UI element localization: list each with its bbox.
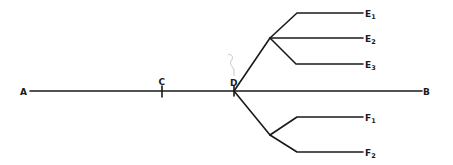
label-b: B: [423, 87, 430, 97]
lower-trunk: [234, 91, 270, 135]
label-c: C: [159, 77, 166, 87]
label-d: D: [230, 78, 237, 88]
branch-f1: [270, 117, 363, 135]
pencil-mark: [228, 55, 234, 76]
label-e1: E1: [365, 9, 376, 21]
label-f2: F2: [365, 148, 376, 160]
upper-trunk: [234, 38, 270, 91]
label-f1: F1: [365, 113, 376, 125]
branching-diagram: A B C D E1 E2 E3 F1 F2: [0, 0, 453, 165]
label-e2: E2: [365, 34, 376, 46]
branch-e1: [270, 13, 363, 38]
branch-e3: [270, 38, 363, 64]
label-e3: E3: [365, 60, 376, 72]
label-a: A: [20, 87, 27, 97]
branch-f2: [270, 135, 363, 152]
